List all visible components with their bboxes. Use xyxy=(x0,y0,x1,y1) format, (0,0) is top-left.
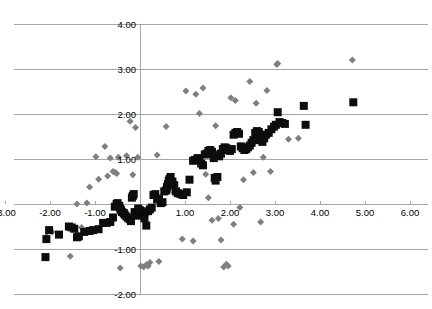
data-point-diamond xyxy=(263,87,270,94)
data-point-diamond xyxy=(104,173,111,180)
data-point-diamond xyxy=(200,84,207,91)
data-point-square xyxy=(42,253,50,261)
data-point-square xyxy=(249,136,257,144)
data-point-diamond xyxy=(267,168,274,175)
data-point-diamond xyxy=(257,219,264,226)
data-point-square xyxy=(302,121,310,129)
x-tick-label: 5.00 xyxy=(356,207,375,218)
data-point-diamond xyxy=(250,169,257,176)
data-point-diamond xyxy=(212,122,219,129)
data-point-square xyxy=(109,214,117,222)
y-tick-label: 2.00 xyxy=(118,109,137,120)
data-point-diamond xyxy=(67,253,74,260)
x-tick-label: 1.00 xyxy=(176,207,195,218)
y-tick-label: -1.00 xyxy=(114,244,136,255)
data-point-square xyxy=(228,145,236,153)
data-point-diamond xyxy=(196,110,203,117)
data-point-diamond xyxy=(192,91,199,98)
y-axis-tick-labels: -2.00-1.001.002.003.004.00 xyxy=(114,19,136,300)
x-tick-label: -1.00 xyxy=(84,207,106,218)
data-point-diamond xyxy=(218,237,225,244)
data-point-diamond xyxy=(246,78,253,85)
data-point-diamond xyxy=(190,237,197,244)
x-tick-label: -3.00 xyxy=(0,207,16,218)
data-point-diamond xyxy=(179,236,186,243)
data-point-diamond xyxy=(154,151,161,158)
data-point-diamond xyxy=(117,264,124,271)
data-point-square xyxy=(142,222,150,230)
data-point-diamond xyxy=(101,143,108,150)
data-point-square xyxy=(235,130,243,138)
data-point-diamond xyxy=(205,194,212,201)
data-point-square xyxy=(274,108,282,116)
data-point-square xyxy=(45,226,53,234)
data-point-square xyxy=(349,98,357,106)
series-square-group xyxy=(42,98,358,261)
data-point-square xyxy=(300,102,308,110)
data-point-diamond xyxy=(86,183,93,190)
data-point-diamond xyxy=(163,123,170,130)
x-tick-label: 4.00 xyxy=(311,207,330,218)
data-point-diamond xyxy=(285,136,292,143)
y-tick-label: 3.00 xyxy=(118,64,137,75)
data-point-diamond xyxy=(132,124,139,131)
y-tick-label: 1.00 xyxy=(118,154,137,165)
data-point-diamond xyxy=(107,155,114,162)
data-point-square xyxy=(70,225,78,233)
data-point-diamond xyxy=(83,200,90,207)
data-point-diamond xyxy=(253,100,260,107)
x-tick-label: 3.00 xyxy=(266,207,285,218)
x-tick-label: 2.00 xyxy=(221,207,240,218)
y-tick-label: 4.00 xyxy=(118,19,137,30)
data-point-diamond xyxy=(74,201,81,208)
data-point-diamond xyxy=(240,176,247,183)
x-axis-tick-labels: -3.00-2.00-1.000.001.002.003.004.005.006… xyxy=(0,207,419,218)
data-point-square xyxy=(199,161,207,169)
data-point-diamond xyxy=(230,221,237,228)
data-point-square xyxy=(183,188,191,196)
data-point-square xyxy=(213,173,221,181)
data-point-diamond xyxy=(202,171,209,178)
data-point-square xyxy=(281,120,289,128)
data-point-square xyxy=(55,231,63,239)
tick-marks-group xyxy=(6,201,411,204)
scatter-chart: -3.00-2.00-1.000.001.002.003.004.005.006… xyxy=(0,0,432,309)
data-point-diamond xyxy=(182,88,189,95)
x-tick-label: 6.00 xyxy=(401,207,420,218)
data-point-diamond xyxy=(95,176,102,183)
x-tick-label: 0.00 xyxy=(131,207,150,218)
x-tick-label: -2.00 xyxy=(39,207,61,218)
y-tick-label: -2.00 xyxy=(114,289,136,300)
data-point-diamond xyxy=(295,135,302,142)
data-point-diamond xyxy=(129,171,136,178)
data-point-square xyxy=(130,190,138,198)
data-point-square xyxy=(159,198,167,206)
data-point-diamond xyxy=(155,258,162,265)
data-point-diamond xyxy=(349,57,356,64)
data-point-square xyxy=(42,235,50,243)
data-point-square xyxy=(186,176,194,184)
plot-area: -3.00-2.00-1.000.001.002.003.004.005.006… xyxy=(0,0,432,309)
data-point-diamond xyxy=(209,217,216,224)
